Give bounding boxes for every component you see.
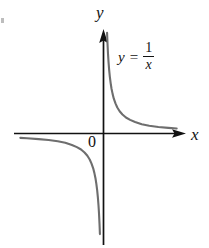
- equation-equals-sign: =: [130, 50, 138, 65]
- equation-annotation: y = 1 x: [118, 42, 154, 73]
- x-axis-label: x: [191, 126, 199, 143]
- equation-left-side: y: [118, 50, 125, 65]
- fraction-denominator: x: [144, 57, 154, 72]
- x-axis: [14, 129, 186, 138]
- graph-canvas: [0, 0, 209, 248]
- curve-branch-quadrant-3: [20, 138, 100, 234]
- y-axis: [99, 29, 108, 245]
- origin-label: 0: [88, 134, 96, 150]
- y-axis-label: y: [96, 4, 104, 21]
- fraction-numerator: 1: [143, 41, 154, 56]
- function-graph-figure: y x 0 y = 1 x: [0, 0, 209, 248]
- equation-fraction: 1 x: [143, 41, 154, 72]
